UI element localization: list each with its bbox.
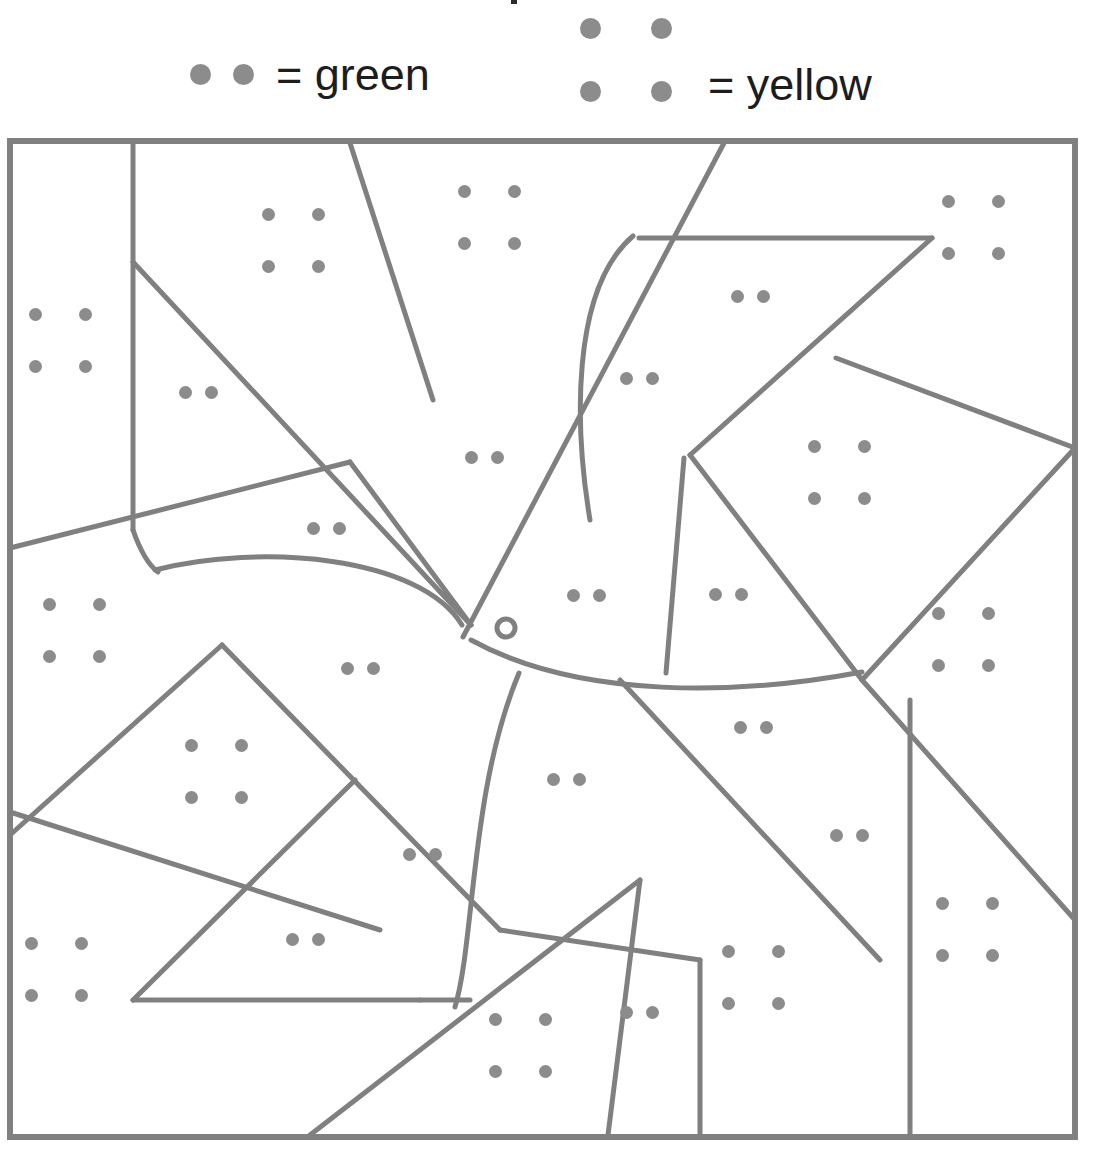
eye-highlight	[504, 623, 510, 629]
board-frame	[10, 141, 1075, 1137]
puzzle-board[interactable]	[0, 0, 1104, 1159]
puzzle-line-art	[0, 0, 1104, 1159]
worksheet-page: = green = yellow	[0, 0, 1104, 1159]
